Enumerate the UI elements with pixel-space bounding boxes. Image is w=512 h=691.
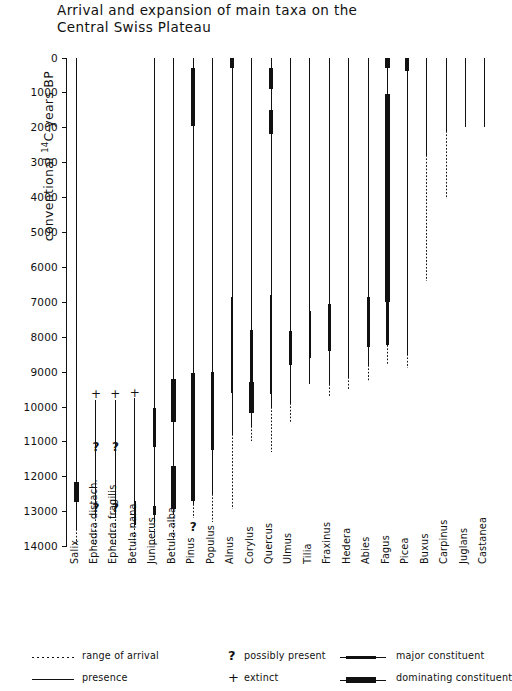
y-axis-tick-label: 12000 <box>12 470 58 482</box>
taxon-label-pinus: Pinus <box>185 537 196 564</box>
taxon-label-carpinus: Carpinus <box>438 520 449 564</box>
y-axis-tick-label: 9000 <box>12 366 58 378</box>
taxon-label-ulmus: Ulmus <box>282 533 293 564</box>
y-axis-tick <box>62 511 67 512</box>
taxon-segment-presence <box>407 58 408 355</box>
y-axis-tick <box>62 267 67 268</box>
y-axis-tick-label: 13000 <box>12 505 58 517</box>
y-axis-tick <box>62 58 67 59</box>
taxon-segment-dominating <box>230 58 235 68</box>
taxon-segment-presence <box>484 58 485 128</box>
taxon-label-ephedra-distach: Ephedra distach. <box>88 479 99 564</box>
taxon-segment-major <box>328 304 331 351</box>
legend-label: dominating constituent <box>396 672 512 683</box>
taxon-segment-dominating <box>171 466 176 510</box>
taxon-segment-major <box>367 297 370 348</box>
legend-label: extinct <box>244 672 278 683</box>
taxon-label-fraxinus: Fraxinus <box>321 522 332 564</box>
taxon-segment-dominating <box>269 68 274 89</box>
legend-label: major constituent <box>396 650 484 661</box>
legend-label: range of arrival <box>82 650 159 661</box>
taxon-segment-presence <box>173 58 174 513</box>
legend-question-mark-icon: ? <box>228 649 236 662</box>
taxon-segment-dominating <box>385 94 390 302</box>
legend-plus-sign-icon: + <box>228 671 239 684</box>
taxon-label-fagus: Fagus <box>380 535 391 564</box>
taxon-segment-arrival <box>232 434 233 509</box>
taxon-segment-major <box>386 302 389 346</box>
taxon-segment-presence <box>465 58 466 128</box>
possibly-present-marker: ? <box>108 441 122 453</box>
taxon-label-betula-nana: Betula nana <box>127 503 138 564</box>
legend-solid-line-icon <box>32 679 74 680</box>
taxon-segment-arrival <box>387 345 388 364</box>
taxon-label-populus: Populus <box>205 525 216 564</box>
y-axis-tick <box>62 372 67 373</box>
y-axis-tick-label: 1000 <box>12 86 58 98</box>
y-axis-tick-label: 4000 <box>12 191 58 203</box>
y-axis-tick-label: 11000 <box>12 435 58 447</box>
y-axis-tick-label: 6000 <box>12 261 58 273</box>
y-axis-tick <box>62 441 67 442</box>
taxon-segment-arrival <box>348 377 349 389</box>
taxon-label-ephedra-fragilis: Ephedra fragilis <box>107 485 118 564</box>
taxon-label-buxus: Buxus <box>419 533 430 564</box>
taxon-segment-major <box>270 295 273 394</box>
taxon-segment-arrival <box>271 407 272 452</box>
taxon-label-quercus: Quercus <box>263 523 274 564</box>
taxon-segment-major <box>309 311 312 358</box>
y-axis-tick <box>62 407 67 408</box>
legend-dominating-bar-icon <box>340 680 386 681</box>
taxon-segment-dominating <box>405 58 410 72</box>
y-axis-tick <box>62 302 67 303</box>
y-axis-tick <box>62 127 67 128</box>
taxon-segment-arrival <box>368 365 369 382</box>
taxon-segment-arrival <box>407 354 408 368</box>
taxon-label-castanea: Castanea <box>477 517 488 564</box>
taxon-segment-presence <box>154 58 155 522</box>
taxon-label-salix: Salix <box>69 540 80 564</box>
y-axis-tick-label: 0 <box>12 52 58 64</box>
y-axis-tick-label: 5000 <box>12 226 58 238</box>
taxon-segment-major <box>153 408 156 446</box>
legend-label: presence <box>82 672 127 683</box>
taxon-segment-major <box>153 506 156 515</box>
taxon-segment-presence <box>348 58 349 377</box>
taxon-segment-dominating <box>269 110 274 134</box>
taxon-label-corylus: Corylus <box>244 526 255 564</box>
taxon-segment-dominating <box>74 482 79 503</box>
y-axis-tick-label: 10000 <box>12 401 58 413</box>
taxon-segment-dominating <box>171 379 176 423</box>
extinct-marker: + <box>128 387 142 399</box>
taxon-segment-major <box>289 331 292 364</box>
extinct-marker: + <box>108 388 122 400</box>
y-axis-tick-label: 14000 <box>12 540 58 552</box>
y-axis-tick <box>62 232 67 233</box>
taxon-segment-presence <box>426 58 427 156</box>
extinct-marker: + <box>89 388 103 400</box>
y-axis-tick <box>62 162 67 163</box>
y-axis-tick <box>62 92 67 93</box>
taxon-segment-arrival <box>193 504 194 518</box>
y-axis-tick <box>62 337 67 338</box>
taxon-label-abies: Abies <box>360 537 371 564</box>
taxon-label-juglans: Juglans <box>458 528 469 564</box>
taxon-label-alnus: Alnus <box>224 536 235 564</box>
y-axis-tick <box>62 476 67 477</box>
taxon-segment-dominating <box>191 68 196 126</box>
taxon-label-tilia: Tilia <box>302 543 313 564</box>
y-axis-tick <box>62 546 67 547</box>
taxon-segment-arrival <box>426 155 427 281</box>
legend: range of arrival?possibly presentmajor c… <box>0 648 497 691</box>
taxon-segment-arrival <box>329 384 330 396</box>
possibly-present-marker: ? <box>186 521 200 533</box>
taxon-segment-arrival <box>251 426 252 442</box>
taxon-label-picea: Picea <box>399 537 410 564</box>
y-axis-tick-label: 3000 <box>12 156 58 168</box>
taxon-segment-presence <box>446 58 447 131</box>
taxon-segment-dominating <box>385 58 390 68</box>
legend-major-bar-icon <box>340 657 386 658</box>
y-axis-label-superscript: 14 <box>40 141 50 152</box>
y-axis-tick-label: 7000 <box>12 296 58 308</box>
